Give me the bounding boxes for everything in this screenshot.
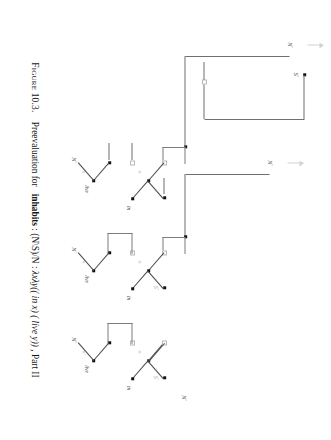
tree-2-edge-5 bbox=[77, 252, 94, 271]
figure-caption-term-in: in bbox=[29, 296, 39, 303]
tree-3-link-symbol-1: ≡ bbox=[152, 369, 157, 372]
tree-2-edge-4 bbox=[92, 252, 109, 271]
tree-1-edge-5 bbox=[77, 162, 94, 181]
tree-1-node-d bbox=[162, 196, 165, 199]
tree-3-link-symbol-2: ≡ bbox=[136, 351, 141, 354]
tree-2-wire-conclusion-v bbox=[185, 174, 269, 175]
tree-1-link-symbol-1: ≡ bbox=[152, 189, 157, 192]
tree-3-word-live: live bbox=[83, 365, 88, 373]
conclusion-arrow-icon bbox=[307, 45, 323, 46]
figure-caption: Figure 10.3. Preevaluation for inhabits … bbox=[29, 0, 39, 440]
book-page: N◦ S◦ ≡ bbox=[0, 0, 331, 440]
tree-1-edge-1 bbox=[147, 162, 164, 181]
tree-3-hypothesis-label: S◦ bbox=[152, 376, 158, 380]
figure-caption-label: Figure 10.3. bbox=[29, 62, 39, 112]
figure-caption-type: (N\S)/N bbox=[29, 233, 39, 263]
tree-2-leaf-label: N◦ bbox=[70, 247, 76, 253]
tree-1-leaf-label: N◦ bbox=[70, 157, 76, 163]
tree-1-word-live: live bbox=[83, 185, 88, 193]
tree-2-edge-3 bbox=[131, 270, 148, 289]
figure-caption-term-a: λxλy(( bbox=[29, 271, 39, 294]
tree-2-edge-1 bbox=[147, 252, 164, 271]
tree-1-node-e bbox=[130, 197, 133, 200]
tree-1-wire-node-f bbox=[108, 143, 109, 160]
figure-caption-term-b: x) ( bbox=[29, 306, 39, 319]
tree-1-open-node-c bbox=[130, 161, 135, 166]
tree-1-edge-3 bbox=[131, 180, 148, 199]
tree-3-node-e bbox=[130, 377, 133, 380]
tree-1-wire-hyp-h-top bbox=[303, 75, 304, 119]
tree-3-conclusion-label: N◦ bbox=[180, 395, 186, 401]
tree-3-leaf-label: N◦ bbox=[70, 337, 76, 343]
tree-1-wire-open-a bbox=[203, 62, 204, 80]
tree-3-edge-4 bbox=[92, 342, 109, 361]
figure-caption-word: inhabits bbox=[29, 194, 39, 226]
tree-1-wire-node-d bbox=[163, 178, 164, 194]
tree-1-wire-conclusion-h bbox=[184, 56, 185, 119]
tree-3-edge-3 bbox=[131, 360, 148, 379]
tree-1-link-symbol-2: ≡ bbox=[136, 171, 141, 174]
tree-1-wire-junction-h bbox=[184, 119, 185, 147]
tree-2-hypothesis-label: S◦ bbox=[152, 286, 158, 290]
tree-3-edge-6 bbox=[148, 343, 165, 362]
tree-2-link-symbol-2: ≡ bbox=[136, 261, 141, 264]
tree-2-word-in: in bbox=[125, 296, 130, 300]
tree-1-conclusion-label: N◦ bbox=[286, 42, 292, 48]
figure-caption-spacer bbox=[29, 115, 39, 120]
tree-2-node-d bbox=[162, 286, 165, 289]
tree-3-word-in: in bbox=[125, 386, 130, 390]
figure-caption-term-c: y)) bbox=[29, 336, 39, 346]
tree-2-conclusion-label: N◦ bbox=[266, 160, 272, 166]
tree-2-link-symbol-1: ≡ bbox=[152, 279, 157, 282]
conclusion-arrow-icon bbox=[287, 163, 303, 164]
figure-diagram-area: N◦ S◦ ≡ bbox=[51, 0, 331, 440]
tree-1-wire-hyp-h-bottom bbox=[203, 84, 204, 119]
tree-2-word-live: live bbox=[83, 275, 88, 283]
tree-1-open-node-a bbox=[202, 80, 207, 85]
tree-1-word-in: in bbox=[125, 206, 130, 210]
tree-2-wire-conclusion-h bbox=[184, 174, 185, 237]
tree-2-node-e bbox=[130, 287, 133, 290]
tree-1-edge-4 bbox=[92, 162, 109, 181]
tree-1-hypothesis-label: S◦ bbox=[292, 73, 298, 77]
figure-caption-tail: , Part II bbox=[29, 349, 39, 377]
tree-3-node-d bbox=[162, 376, 165, 379]
tree-1-wire-conclusion-v bbox=[185, 56, 289, 57]
figure-caption-term-live: live bbox=[29, 321, 39, 335]
tree-1-wire-hyp-v bbox=[204, 119, 304, 120]
tree-3-edge-5 bbox=[77, 342, 94, 361]
tree-1-wire-open-c bbox=[131, 143, 132, 160]
figure-caption-lead: Preevaluation for bbox=[29, 122, 39, 187]
